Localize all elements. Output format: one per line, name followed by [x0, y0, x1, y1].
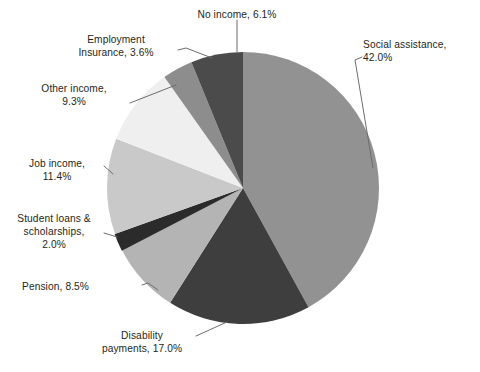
- pie-label-social-assistance: Social assistance, 42.0%: [363, 38, 479, 64]
- pie-label-employment-insurance: Employment Insurance, 3.6%: [56, 33, 176, 59]
- leader-line-disability-payments: [196, 322, 227, 336]
- pie-label-no-income: No income, 6.1%: [172, 8, 302, 21]
- pie-label-student-loans: Student loans & scholarships, 2.0%: [5, 212, 103, 251]
- pie-label-pension: Pension, 8.5%: [22, 280, 140, 293]
- pie-label-other-income: Other income, 9.3%: [20, 82, 128, 108]
- pie-label-job-income: Job income, 11.4%: [12, 157, 102, 183]
- leader-line-employment-insurance: [178, 48, 212, 58]
- pie-label-disability-payments: Disability payments, 17.0%: [88, 329, 196, 355]
- pie-chart: Social assistance, 42.0% No income, 6.1%…: [0, 0, 480, 372]
